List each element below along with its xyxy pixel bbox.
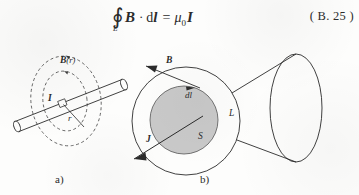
- label-radius-r: r: [68, 113, 72, 123]
- surface-s-shaded-disk: [150, 86, 218, 154]
- label-contour-l: L: [228, 108, 234, 118]
- figure-page: ∮ L B·dl=μ0I ( B. 25 ): [0, 0, 359, 195]
- label-field-b-of-r: B(r): [59, 55, 75, 65]
- caption-b: b): [200, 173, 209, 185]
- equation-current-vector: I: [186, 9, 193, 25]
- caption-a: a): [55, 173, 64, 185]
- label-of-r: (r): [66, 55, 75, 65]
- current-carrying-wire: [12, 78, 129, 133]
- label-b-bold: B: [59, 55, 66, 65]
- equation-dot-operator: ·: [135, 9, 146, 24]
- equation-equals-sign: =: [158, 10, 175, 25]
- equation-number: ( B. 25 ): [310, 9, 354, 24]
- contour-integral-symbol: ∮ L: [112, 4, 125, 34]
- integral-subscript: L: [113, 25, 117, 33]
- label-current-i: I: [47, 93, 52, 103]
- figure-b-cylindrical-conductor: B dl J S L: [130, 36, 359, 195]
- equation-differential-l: l: [153, 9, 157, 25]
- label-vector-j: J: [145, 134, 151, 144]
- equation-mu: μ0: [174, 10, 186, 25]
- label-line-element-dl: dl: [185, 90, 193, 100]
- label-surface-s: S: [198, 131, 203, 141]
- radius-line: [64, 105, 85, 128]
- ampere-law-equation: ∮ L B·dl=μ0I: [112, 4, 193, 34]
- cylinder-back-face: [270, 54, 322, 162]
- equation-row: ∮ L B·dl=μ0I ( B. 25 ): [0, 3, 359, 37]
- equation-b-vector: B: [125, 9, 135, 25]
- label-vector-b: B: [165, 55, 172, 65]
- figure-a-wire-field-lines: B(r) I r: [8, 38, 143, 195]
